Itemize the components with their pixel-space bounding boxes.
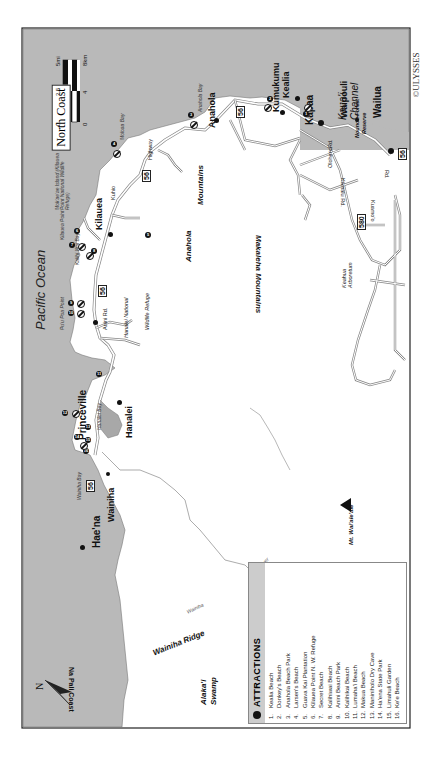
legend-item: 8.Kalihiwai Beach — [326, 563, 334, 719]
kuamoo-road-label: Kuamo'o — [370, 200, 376, 222]
legend-item: 9.Anini Beach Park — [334, 563, 342, 719]
alakai-label-1: Alaka'i — [200, 680, 208, 705]
legend-item: 16.Ke'e Beach — [393, 563, 401, 719]
north-coast-map: North Coast 0 2.5 5mi 0 4 8km ©ULYSSES N… — [0, 0, 431, 762]
marker-3[interactable]: 3 — [188, 112, 194, 118]
marker-14[interactable]: 14 — [74, 434, 80, 440]
kuamoo-rd-label: Rd. — [384, 170, 390, 179]
scale-km-0: 0 — [82, 123, 88, 126]
legend-item: 7.Secret Beach — [317, 563, 325, 719]
legend-item: 14.Ha'ena State Park — [376, 563, 384, 719]
alakai-label-2: Swamp — [210, 677, 218, 705]
town-hanalei: Hanalei — [125, 406, 134, 438]
mt-waialeale-label: Mt. Wai'ale'ale — [348, 505, 354, 545]
town-wailua: Wailua — [373, 86, 383, 118]
beach-icon-2 — [264, 104, 272, 112]
highway-road-label: Highway — [148, 139, 154, 160]
hanalei-dot — [117, 400, 122, 405]
beach-icon-8 — [86, 252, 94, 260]
legend-item: 3.Anahola Beach Park — [284, 563, 292, 719]
attractions-legend: ATTRACTIONS 1.Kealia Beach 2.Donkey's Be… — [248, 562, 407, 724]
pacific-ocean-label: Pacific Ocean — [34, 250, 47, 330]
kilauea-point-label: Kilauea Point — [60, 211, 65, 240]
marker-4[interactable]: 4 — [111, 141, 117, 147]
scale-mi-0: 0 — [55, 123, 61, 126]
anahola-mtns-label-2: Mountains — [197, 165, 205, 205]
legend-item: 1.Kealia Beach — [267, 563, 275, 719]
beach-icon-10 — [77, 310, 85, 318]
beach-icon-1 — [304, 104, 312, 112]
legend-header: ATTRACTIONS — [249, 563, 265, 723]
nounou-label-2: Reserve — [362, 113, 368, 134]
marker-10[interactable]: 10 — [68, 310, 74, 316]
princeville-dot — [93, 320, 98, 325]
makaleha-mtns-label: Makaleha Mountains — [254, 235, 262, 313]
moloaa-bay-label: Moloaa Bay — [120, 114, 125, 140]
hwy-56-shield-kuhio: 56 — [142, 170, 151, 182]
kumukumu-dot — [280, 110, 285, 115]
haena-dot — [80, 545, 85, 550]
anahola-bay-label: Anahola Bay — [198, 84, 203, 112]
marker-11[interactable]: 11 — [96, 371, 102, 377]
legend-title: ATTRACTIONS — [252, 638, 262, 707]
wainiha-bay-label: Wainiha Bay — [77, 472, 82, 500]
scale-km-max: 8km — [82, 55, 88, 66]
legend-item: 4.Larsen's Beach — [292, 563, 300, 719]
town-kealia: Kealia — [282, 71, 291, 98]
marker-13[interactable]: 13 — [85, 424, 91, 430]
beach-icon-9 — [77, 300, 85, 308]
legend-item: 10.Kalihikai Beach — [343, 563, 351, 719]
kamalu-road-label: Kamalu Rd. — [340, 178, 346, 207]
scale-mi-max: 5mi — [55, 56, 61, 66]
kilauea-dot — [108, 232, 113, 237]
mokuaeae-island-label: Mok'ae'ae Island (Kilauea Point National… — [55, 150, 70, 210]
keahua-arboretum-label: Keahua Arboretum — [342, 248, 353, 288]
legend-item: 2.Donkey's Beach — [275, 563, 283, 719]
marker-2[interactable]: 2 — [267, 96, 273, 102]
town-kilauea: Kilauea — [95, 198, 104, 230]
marker-5[interactable]: 5 — [145, 232, 151, 238]
na-pali-coast-label: Na Pali Coast — [68, 667, 75, 712]
town-waipouli: Waipouli — [340, 81, 349, 118]
legend-item: 11.Lumaha'i Beach — [351, 563, 359, 719]
compass-n-label: N — [35, 683, 45, 690]
marker-6[interactable]: 6 — [74, 228, 80, 234]
hanalei-bay-label: Hanalei Bay — [97, 403, 102, 430]
hanalei-refuge-label-1: Hanalei National — [124, 298, 130, 338]
nounou-label-1: Nounou Forest — [355, 99, 361, 138]
legend-item: 15.Limahuli Garden — [385, 563, 393, 719]
wainiha-dot — [106, 472, 110, 476]
beach-icon-7 — [78, 243, 86, 251]
kuhio-road-label: Kuhio — [111, 186, 117, 200]
marker-12[interactable]: 12 — [62, 410, 68, 416]
legend-item: 5.Guava Kai Plantation — [301, 563, 309, 719]
legend-list: 1.Kealia Beach 2.Donkey's Beach 3.Anahol… — [267, 563, 402, 719]
legend-item: 6.Kilauea Point N. W. Refuge — [309, 563, 317, 719]
beach-icon-4 — [113, 150, 121, 158]
anahola-mtns-label-1: Anahola — [185, 230, 193, 262]
scale-km-mid: 4 — [82, 91, 88, 94]
legend-item: 13.Maniniholo Dry Cave — [368, 563, 376, 719]
marker-7[interactable]: 7 — [69, 242, 75, 248]
beach-icon-12 — [72, 410, 80, 418]
publisher-logo: ©ULYSSES — [411, 52, 421, 99]
puupoa-point-label: Pu'u Poa Point — [60, 297, 65, 330]
anahola-dot — [214, 118, 219, 123]
hanalei-refuge-label-2: Wildlife Refuge — [145, 293, 151, 330]
kapaa-dot — [318, 120, 324, 126]
town-wainiha: Wainiha — [107, 488, 116, 522]
kealia-dot — [295, 96, 300, 101]
anini-road-label: Anini Rd. — [103, 308, 109, 330]
hwy-56-shield-wainiha: 56 — [86, 480, 95, 492]
legend-bullet-icon — [253, 711, 261, 719]
hwy-56-shield-anini: 56 — [98, 285, 107, 297]
marker-9[interactable]: 9 — [68, 300, 74, 306]
hwy-56-shield-wailua: 56 — [398, 148, 407, 160]
olohena-road-label: Olohena — [328, 147, 334, 168]
scale-mi-mid: 2.5 — [55, 88, 61, 96]
beach-icon-3 — [190, 121, 198, 129]
legend-item: 12.Makua Beach — [359, 563, 367, 719]
hwy-56-shield-anahola: 56 — [236, 106, 245, 118]
hwy-580-shield: 580 — [357, 214, 366, 230]
beach-icon-16 — [80, 442, 88, 450]
